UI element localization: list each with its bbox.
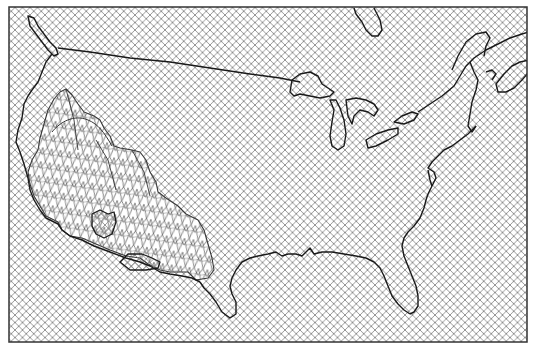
mesh-hole-1 bbox=[92, 210, 116, 238]
us-map bbox=[0, 0, 539, 347]
map-container bbox=[0, 0, 539, 347]
